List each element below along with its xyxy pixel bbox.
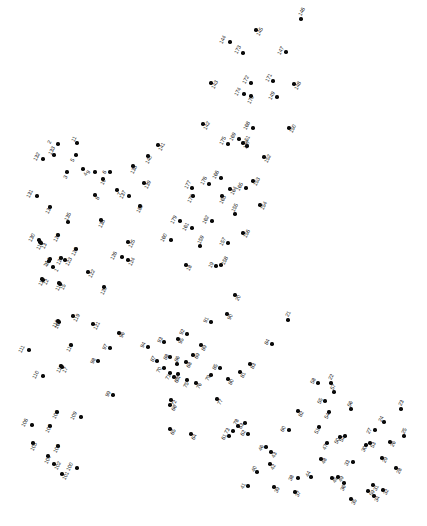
dot-label-121: 121 <box>93 321 102 331</box>
dot-marker-161[interactable] <box>190 226 193 229</box>
dot-label-145: 145 <box>256 27 265 37</box>
dot-label-165: 165 <box>236 182 245 192</box>
dot-label-168: 168 <box>243 121 252 131</box>
dot-marker-169[interactable] <box>237 137 240 140</box>
dot-label-167: 167 <box>243 140 252 150</box>
dot-marker-91[interactable] <box>209 320 212 323</box>
dot-label-29: 29 <box>382 456 389 464</box>
dot-marker-38[interactable] <box>296 476 299 479</box>
dot-label-85: 85 <box>212 363 219 371</box>
dot-label-137: 137 <box>119 190 128 200</box>
dot-marker-132[interactable] <box>41 157 44 160</box>
dot-label-83: 83 <box>250 362 257 370</box>
dot-label-150: 150 <box>289 124 298 134</box>
dot-label-143: 143 <box>211 80 220 90</box>
dot-label-37: 37 <box>295 490 302 498</box>
dot-marker-33[interactable] <box>351 460 354 463</box>
dot-label-33: 33 <box>344 459 351 467</box>
dot-label-134: 134 <box>45 205 54 215</box>
dot-label-103: 103 <box>53 444 62 454</box>
dot-label-34: 34 <box>374 495 381 503</box>
dot-marker-85[interactable] <box>218 366 221 369</box>
dot-label-153: 153 <box>253 177 262 187</box>
dot-marker-3[interactable] <box>65 170 68 173</box>
dot-marker-172[interactable] <box>249 81 252 84</box>
dot-marker-173[interactable] <box>241 51 244 54</box>
dot-label-158: 158 <box>221 256 230 266</box>
dot-label-26: 26 <box>390 440 397 448</box>
dot-marker-179[interactable] <box>178 219 181 222</box>
dot-label-6: 6 <box>102 170 108 175</box>
dot-label-51: 51 <box>314 427 321 435</box>
dot-label-47: 47 <box>322 443 329 451</box>
dot-marker-126[interactable] <box>120 255 123 258</box>
dot-label-57: 57 <box>330 383 337 391</box>
dot-label-5: 5 <box>70 158 76 163</box>
dot-label-161: 161 <box>182 222 191 232</box>
dot-marker-131[interactable] <box>35 194 38 197</box>
dot-marker-111[interactable] <box>27 348 30 351</box>
dot-label-123: 123 <box>65 257 74 267</box>
dot-marker-27[interactable] <box>373 428 376 431</box>
dot-marker-99[interactable] <box>111 393 114 396</box>
dot-marker-84[interactable] <box>270 342 273 345</box>
dot-marker-160[interactable] <box>169 238 172 241</box>
dot-marker-106[interactable] <box>30 423 33 426</box>
dot-label-19: 19 <box>208 261 215 269</box>
dot-marker-137[interactable] <box>127 194 130 197</box>
dot-marker-100[interactable] <box>75 466 78 469</box>
dot-marker-166[interactable] <box>219 176 222 179</box>
dot-marker-21[interactable] <box>286 318 289 321</box>
dot-label-65: 65 <box>170 428 177 436</box>
dot-label-96: 96 <box>119 331 126 339</box>
dot-marker-23[interactable] <box>399 407 402 410</box>
dot-label-109: 109 <box>70 411 79 421</box>
dot-label-60: 60 <box>280 425 287 433</box>
dot-label-180: 180 <box>136 204 145 214</box>
dot-label-170: 170 <box>247 95 256 105</box>
dot-marker-109[interactable] <box>79 415 82 418</box>
dot-marker-149[interactable] <box>275 95 278 98</box>
dot-marker-19[interactable] <box>214 264 217 267</box>
dot-label-159: 159 <box>197 235 206 245</box>
dot-marker-94[interactable] <box>146 345 149 348</box>
dot-marker-5[interactable] <box>74 153 77 156</box>
dot-marker-144[interactable] <box>228 40 231 43</box>
dot-label-101: 101 <box>62 471 71 481</box>
dot-label-132: 132 <box>33 152 42 162</box>
dot-label-108: 108 <box>52 410 61 420</box>
dot-marker-175[interactable] <box>226 142 229 145</box>
dot-marker-157[interactable] <box>226 241 229 244</box>
dot-label-163: 163 <box>219 195 228 205</box>
dot-marker-174[interactable] <box>242 92 245 95</box>
dot-marker-60[interactable] <box>287 428 290 431</box>
dot-marker-146[interactable] <box>299 17 302 20</box>
dot-marker-130[interactable] <box>37 238 40 241</box>
dot-label-35: 35 <box>351 498 358 506</box>
dot-label-104: 104 <box>44 455 53 465</box>
dot-marker-162[interactable] <box>210 219 213 222</box>
dot-marker-110[interactable] <box>41 374 44 377</box>
dot-marker-97[interactable] <box>108 346 111 349</box>
dot-marker-177[interactable] <box>190 186 193 189</box>
dot-marker-176[interactable] <box>207 182 210 185</box>
dot-label-30: 30 <box>361 445 368 453</box>
dot-marker-171[interactable] <box>271 79 274 82</box>
dot-marker-58[interactable] <box>316 381 319 384</box>
dot-marker-92[interactable] <box>185 332 188 335</box>
dot-label-97: 97 <box>102 343 109 351</box>
dot-marker-73[interactable] <box>231 429 234 432</box>
dot-marker-147[interactable] <box>284 50 287 53</box>
dot-label-3: 3 <box>63 175 69 180</box>
dot-marker-2[interactable] <box>56 142 59 145</box>
dot-marker-165[interactable] <box>244 186 247 189</box>
dot-label-141: 141 <box>158 142 167 152</box>
dot-label-152: 152 <box>264 154 273 164</box>
dot-label-162: 162 <box>202 215 211 225</box>
dot-label-131: 131 <box>26 189 35 199</box>
dot-marker-6[interactable] <box>108 170 111 173</box>
dot-marker-168[interactable] <box>251 126 254 129</box>
dot-marker-62[interactable] <box>246 432 249 435</box>
dot-marker-9[interactable] <box>93 170 96 173</box>
dot-label-102: 102 <box>54 461 63 471</box>
